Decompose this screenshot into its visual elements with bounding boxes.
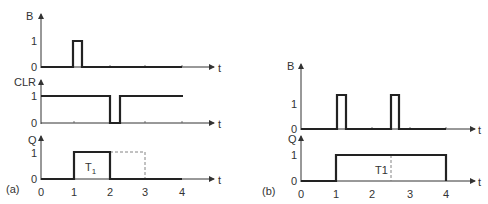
panel-a-signal-clr: CLR 1 0 t [14,76,221,130]
time-axis-label: t [218,62,221,74]
panel-a-signal-q: Q 1 0 t T1 0 1 2 3 4 [28,134,221,198]
time-axis-label: t [218,118,221,130]
x-tick: 4 [179,186,185,198]
panel-b: B 1 0 t Q 1 0 t T1 0 1 2 3 4 (b) [262,60,481,200]
level-0-label: 0 [291,175,297,187]
x-tick: 3 [142,186,148,198]
panel-b-signal-b: B 1 0 t [287,60,481,136]
level-1-label: 1 [31,147,37,159]
x-tick: 3 [407,188,413,200]
waveform [41,41,182,67]
dashed-continuation [110,152,145,179]
waveform [301,155,446,181]
pulse-width-label: T1 [375,164,388,176]
timing-diagram: B 1 0 t CLR 1 0 t Q 1 0 t T1 [0,0,488,204]
time-axis-label: t [218,174,221,186]
waveform [41,152,182,179]
waveform [41,96,183,123]
time-axis-label: t [478,124,481,136]
x-tick: 1 [71,186,77,198]
x-tick: 0 [298,188,304,200]
signal-name: CLR [14,76,36,88]
panel-a-signal-b: B 1 0 t [26,10,221,74]
x-tick: 0 [38,186,44,198]
signal-name: Q [288,133,297,145]
panel-b-signal-q: Q 1 0 t T1 0 1 2 3 4 [288,133,481,200]
level-0-label: 0 [31,117,37,129]
level-1-label: 1 [31,90,37,102]
level-1-label: 1 [291,98,297,110]
level-1-label: 1 [31,35,37,47]
panel-caption: (b) [262,185,275,197]
x-tick: 2 [107,186,113,198]
x-tick: 2 [369,188,375,200]
waveform [301,95,446,129]
panel-caption: (a) [6,183,19,195]
signal-name: B [287,60,294,72]
level-0-label: 0 [31,173,37,185]
level-0-label: 0 [31,61,37,73]
panel-a: B 1 0 t CLR 1 0 t Q 1 0 t T1 [6,10,221,198]
time-axis-label: t [478,176,481,188]
level-1-label: 1 [291,149,297,161]
signal-name: Q [28,134,37,146]
x-tick: 4 [443,188,449,200]
signal-name: B [26,10,33,22]
x-tick: 1 [333,188,339,200]
pulse-width-label: T1 [85,161,97,176]
